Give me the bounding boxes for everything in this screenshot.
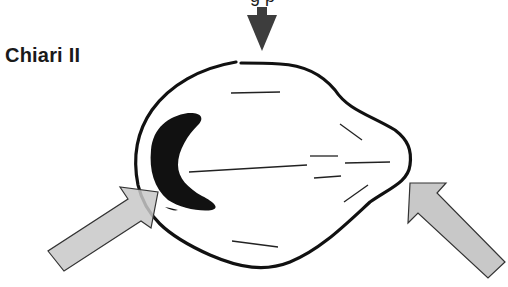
right-pressure-arrow-icon [408,183,505,278]
top-arrow-icon [247,7,277,51]
inner-lines [189,92,390,247]
crescent-mass [151,113,216,211]
chiari-diagram [0,0,508,287]
left-pressure-arrow-icon [48,187,158,271]
